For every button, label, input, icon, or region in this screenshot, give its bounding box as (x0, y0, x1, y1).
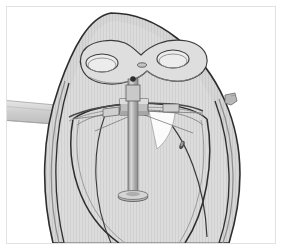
beam-tab-left (103, 107, 119, 117)
outer-shell (45, 13, 240, 243)
image-frame: Grayscale shaded 3D CAD render of an egg… (6, 6, 276, 244)
screenshot-viewport: Grayscale shaded 3D CAD render of an egg… (0, 0, 284, 252)
right-fitting (225, 93, 237, 105)
bracket-waist-detail (138, 63, 147, 67)
shaft-base-disc (118, 191, 148, 202)
beam-tab-right (163, 104, 179, 112)
shaft-top-bolt (130, 76, 136, 82)
cad-render-canvas (7, 7, 275, 243)
